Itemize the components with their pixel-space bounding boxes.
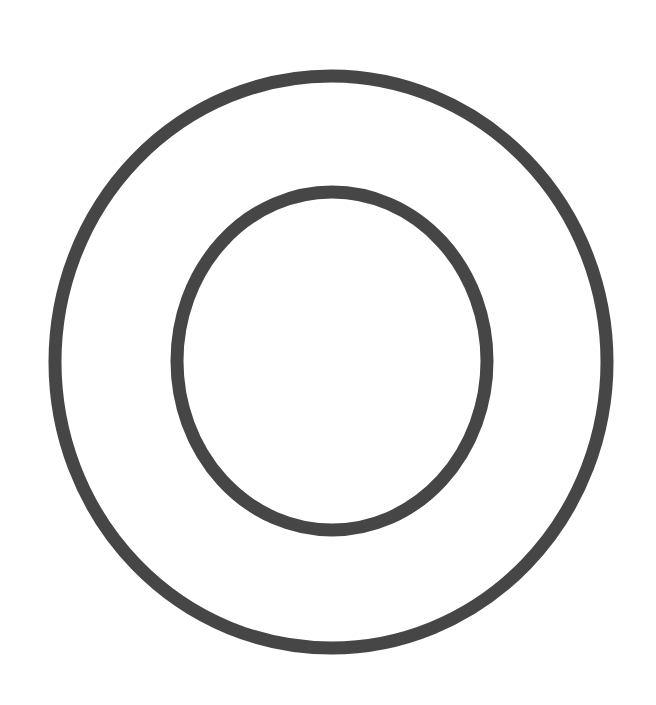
concentric-rings-diagram bbox=[0, 0, 656, 705]
diagram-canvas bbox=[0, 0, 656, 705]
outer-ring bbox=[55, 76, 607, 648]
inner-ring bbox=[177, 192, 487, 530]
